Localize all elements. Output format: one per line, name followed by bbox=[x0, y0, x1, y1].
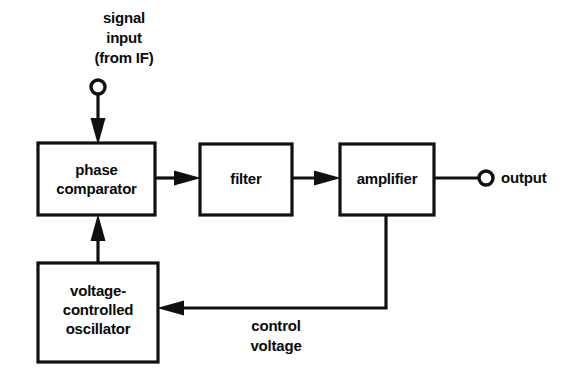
arrowhead-vco-to-comparator bbox=[91, 214, 106, 241]
control-voltage-label-line1: control bbox=[251, 317, 300, 334]
arrowhead-filter-to-amplifier bbox=[314, 171, 341, 186]
control-voltage-label-line2: voltage bbox=[250, 337, 301, 354]
signal-input-label-line1: signal bbox=[103, 9, 145, 26]
phase-comparator-label-line1: phase bbox=[75, 161, 117, 178]
signal-input-terminal-icon[interactable] bbox=[91, 80, 105, 94]
signal-input-label-line2: input bbox=[106, 29, 142, 46]
signal-input-label: signal input (from IF) bbox=[94, 9, 153, 66]
control-voltage-label: control voltage bbox=[250, 317, 301, 354]
arrowhead-comparator-to-filter bbox=[174, 171, 201, 186]
wire-control-voltage-feedback bbox=[175, 215, 386, 308]
vco-label-line1: voltage- bbox=[70, 282, 126, 299]
output-label: output bbox=[501, 169, 547, 186]
vco-label-line2: controlled bbox=[63, 301, 134, 318]
diagram-canvas: phase comparator filter amplifier voltag… bbox=[0, 0, 578, 391]
output-terminal-icon[interactable] bbox=[479, 171, 493, 185]
block-voltage-controlled-oscillator[interactable]: voltage- controlled oscillator bbox=[38, 263, 158, 362]
phase-comparator-label-line2: comparator bbox=[56, 180, 137, 197]
block-diagram: phase comparator filter amplifier voltag… bbox=[0, 0, 578, 391]
block-phase-comparator[interactable]: phase comparator bbox=[38, 143, 155, 215]
amplifier-label: amplifier bbox=[357, 170, 418, 187]
block-filter[interactable]: filter bbox=[200, 144, 292, 215]
filter-label: filter bbox=[230, 170, 262, 187]
arrowhead-input-to-comparator bbox=[91, 118, 106, 145]
vco-label-line3: oscillator bbox=[66, 320, 131, 337]
signal-input-label-line3: (from IF) bbox=[94, 49, 153, 66]
arrowhead-feedback-to-vco bbox=[157, 301, 184, 316]
block-amplifier[interactable]: amplifier bbox=[340, 144, 434, 215]
